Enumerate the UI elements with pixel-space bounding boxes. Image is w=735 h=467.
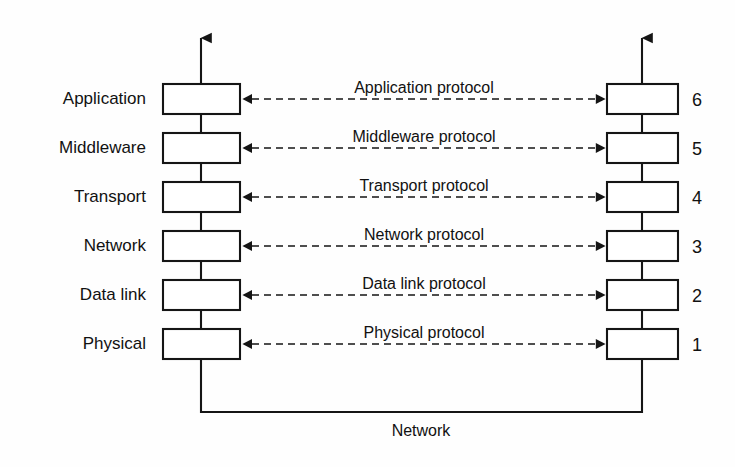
- layer-number-3: 3: [692, 237, 702, 257]
- left-layer-box-application[interactable]: [163, 84, 240, 114]
- left-layer-box-network[interactable]: [163, 231, 240, 261]
- protocol-labels: Application protocol Middleware protocol…: [352, 79, 495, 341]
- diagram-canvas: Application Middleware Transport Network…: [0, 0, 735, 467]
- layer-number-2: 2: [692, 286, 702, 306]
- left-layer-box-physical[interactable]: [163, 329, 240, 359]
- protocol-label-transport: Transport protocol: [359, 177, 488, 194]
- layer-label-middleware: Middleware: [59, 138, 146, 157]
- layer-label-network: Network: [84, 236, 147, 255]
- right-stack: [607, 38, 678, 359]
- layer-number-6: 6: [692, 90, 702, 110]
- right-layer-numbers: 6 5 4 3 2 1: [692, 90, 702, 355]
- right-layer-box-network[interactable]: [607, 231, 678, 261]
- right-layer-box-middleware[interactable]: [607, 133, 678, 163]
- right-layer-box-transport[interactable]: [607, 182, 678, 212]
- left-layer-box-transport[interactable]: [163, 182, 240, 212]
- right-layer-box-physical[interactable]: [607, 329, 678, 359]
- layer-number-5: 5: [692, 139, 702, 159]
- layer-label-application: Application: [63, 89, 146, 108]
- left-layer-box-data-link[interactable]: [163, 280, 240, 310]
- network-bottom-label: Network: [392, 422, 452, 439]
- protocol-label-data-link: Data link protocol: [362, 275, 486, 292]
- protocol-label-network: Network protocol: [364, 226, 484, 243]
- layer-number-1: 1: [692, 335, 702, 355]
- protocol-label-middleware: Middleware protocol: [352, 128, 495, 145]
- protocol-label-physical: Physical protocol: [364, 324, 485, 341]
- layer-number-4: 4: [692, 188, 702, 208]
- network-connector: [201, 359, 642, 412]
- protocol-stack-diagram: Application Middleware Transport Network…: [0, 0, 735, 467]
- right-layer-box-application[interactable]: [607, 84, 678, 114]
- layer-label-data-link: Data link: [80, 285, 147, 304]
- left-layer-labels: Application Middleware Transport Network…: [59, 89, 146, 353]
- layer-label-physical: Physical: [83, 334, 146, 353]
- right-layer-box-data-link[interactable]: [607, 280, 678, 310]
- left-stack: [163, 38, 240, 359]
- protocol-label-application: Application protocol: [354, 79, 494, 96]
- left-layer-box-middleware[interactable]: [163, 133, 240, 163]
- layer-label-transport: Transport: [74, 187, 146, 206]
